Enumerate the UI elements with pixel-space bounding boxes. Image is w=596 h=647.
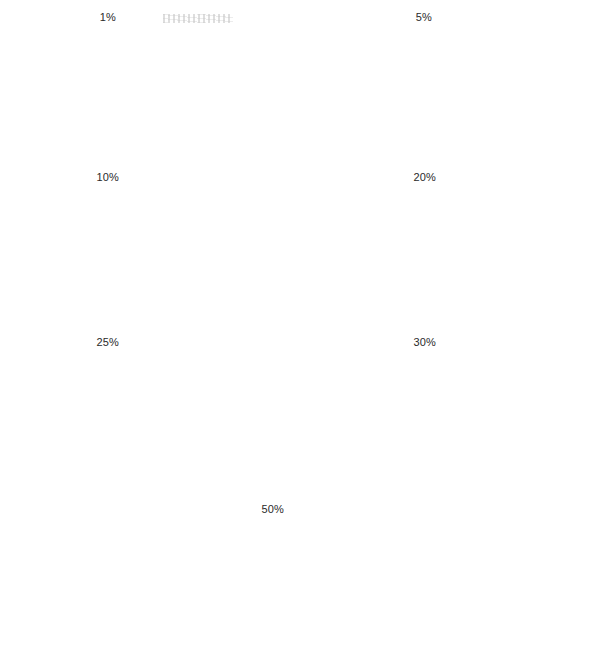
panel-label-1: 1%	[76, 11, 116, 23]
scan-smudge-artifact	[163, 14, 233, 23]
panel-label-25: 25%	[73, 336, 119, 348]
panel-label-30: 30%	[390, 336, 436, 348]
panel-label-50: 50%	[238, 503, 284, 515]
panel-label-20: 20%	[390, 171, 436, 183]
panel-label-5: 5%	[392, 11, 432, 23]
figure-canvas: 1%5%10%20%25%30%50%	[0, 0, 596, 647]
panel-label-10: 10%	[73, 171, 119, 183]
